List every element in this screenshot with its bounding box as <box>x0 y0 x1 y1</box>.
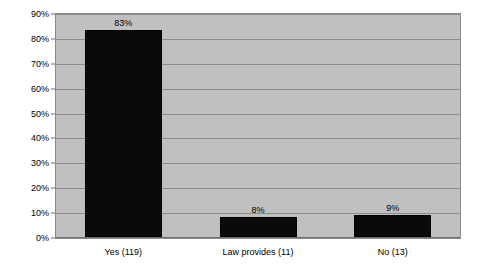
bar <box>220 217 297 237</box>
bar <box>85 30 162 237</box>
y-axis-tick-label: 70% <box>31 59 49 68</box>
y-axis-tick-label: 20% <box>31 184 49 193</box>
y-axis-tick-label: 50% <box>31 109 49 118</box>
bar-value-label: 9% <box>353 203 433 213</box>
y-axis-tick-label: 40% <box>31 134 49 143</box>
bar-value-label: 8% <box>218 205 298 215</box>
bar <box>354 215 431 237</box>
x-axis-category-label: No (13) <box>313 247 473 257</box>
y-axis-tick-label: 0% <box>36 234 49 243</box>
bar-chart: 0%10%20%30%40%50%60%70%80%90% 83%8%9% Ye… <box>0 0 478 275</box>
y-axis-tick-label: 10% <box>31 209 49 218</box>
y-axis-tick-label: 60% <box>31 84 49 93</box>
y-axis-tick-label: 30% <box>31 159 49 168</box>
y-axis-tick-label: 80% <box>31 34 49 43</box>
axis-baseline <box>56 237 460 238</box>
bar-value-label: 83% <box>83 18 163 28</box>
y-axis-tick-label: 90% <box>31 10 49 19</box>
gridline <box>56 14 460 15</box>
